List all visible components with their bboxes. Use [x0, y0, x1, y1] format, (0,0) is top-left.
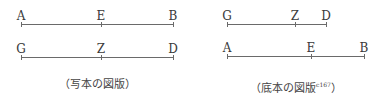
point-label-B: B [169, 10, 178, 22]
right-caption-close: ） [331, 82, 342, 95]
point-label-G: G [16, 43, 26, 55]
right-caption-text: （底本の図版 [250, 82, 316, 95]
right-caption: （底本の図版c167） [250, 79, 342, 95]
point-label-D: D [321, 10, 331, 22]
point-label-B: B [360, 42, 369, 54]
point-label-Z: Z [97, 43, 105, 55]
point-label-A: A [223, 42, 232, 54]
point-label-D: D [168, 43, 178, 55]
point-label-E: E [307, 42, 316, 54]
segment-AB-right [227, 56, 364, 57]
segment-GD-right [227, 24, 326, 25]
point-label-G: G [222, 10, 232, 22]
segment-AB-left [21, 24, 173, 25]
footnote-ref: c167 [316, 81, 331, 88]
point-label-E: E [97, 10, 106, 22]
segment-GD-left [21, 57, 173, 58]
point-label-A: A [17, 10, 26, 22]
left-caption: （写本の図版） [59, 79, 136, 91]
point-label-Z: Z [291, 10, 299, 22]
